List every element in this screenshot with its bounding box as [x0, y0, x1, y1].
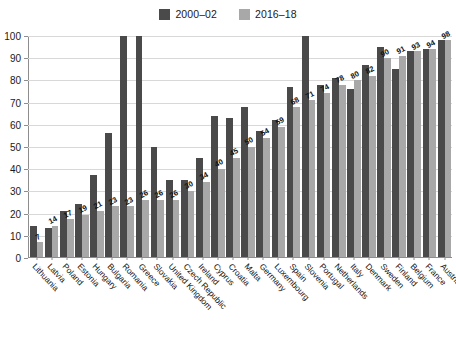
bar[interactable]: 71 — [309, 100, 316, 257]
bar-value-label: 93 — [410, 41, 421, 52]
x-axis-category-labels: LithuaniaLatviaPolandEstoniaHungaryBulga… — [29, 262, 453, 342]
x-category-cell: Slovakia — [150, 262, 165, 342]
bar-value-label: 40 — [214, 158, 225, 169]
y-tick-mark — [24, 147, 28, 148]
bar-groups: 7141719212323262626303440455054596871747… — [29, 36, 452, 257]
bar[interactable]: 26 — [142, 200, 149, 257]
bar-value-label: 82 — [365, 65, 376, 76]
bar[interactable]: 26 — [173, 200, 180, 257]
bar[interactable] — [136, 36, 143, 257]
bar[interactable]: 40 — [218, 169, 225, 257]
bar[interactable]: 50 — [248, 147, 255, 258]
bar[interactable]: 17 — [67, 219, 74, 257]
bar[interactable]: 94 — [429, 49, 436, 257]
legend-item[interactable]: 2016–18 — [239, 8, 297, 20]
bar[interactable] — [45, 228, 52, 257]
y-tick-label: 20 — [10, 208, 21, 219]
bar-value-label: 21 — [93, 200, 104, 211]
bar[interactable] — [226, 118, 233, 257]
bar-group: 19 — [74, 36, 89, 257]
bar[interactable] — [438, 40, 445, 257]
bar[interactable]: 90 — [384, 58, 391, 257]
bar[interactable] — [377, 47, 384, 257]
x-category-label[interactable]: Austria — [439, 262, 456, 287]
bar[interactable]: 23 — [127, 206, 134, 257]
bar[interactable] — [423, 49, 430, 257]
x-category-cell: Malta — [241, 262, 256, 342]
bar[interactable]: 54 — [263, 138, 270, 257]
bar[interactable] — [332, 78, 339, 257]
bar-group: 71 — [301, 36, 316, 257]
x-category-cell: Bulgaria — [105, 262, 120, 342]
x-category-cell: Italy — [347, 262, 362, 342]
y-tick-mark — [24, 103, 28, 104]
bar[interactable]: 82 — [369, 76, 376, 257]
legend-swatch-2016-18 — [239, 9, 250, 20]
bar[interactable]: 45 — [233, 158, 240, 257]
bar-group: 78 — [331, 36, 346, 257]
bar[interactable]: 34 — [203, 182, 210, 257]
bar[interactable] — [272, 120, 279, 257]
bar[interactable]: 19 — [82, 215, 89, 257]
bar[interactable] — [151, 147, 158, 258]
x-category-cell: Estonia — [74, 262, 89, 342]
bar[interactable] — [392, 69, 399, 257]
x-category-cell: Germany — [256, 262, 271, 342]
bar[interactable] — [256, 131, 263, 257]
bar[interactable]: 59 — [278, 127, 285, 257]
x-category-cell: Lithuania — [29, 262, 44, 342]
bar[interactable] — [211, 116, 218, 257]
x-category-cell: Greece — [135, 262, 150, 342]
x-category-cell: Croatia — [226, 262, 241, 342]
bar[interactable] — [287, 87, 294, 257]
bar[interactable]: 91 — [399, 56, 406, 257]
bar[interactable]: 78 — [339, 85, 346, 257]
bar-group: 7 — [29, 36, 44, 257]
bar-group: 59 — [271, 36, 286, 257]
bar[interactable] — [90, 175, 97, 257]
y-tick-mark — [24, 125, 28, 126]
bar-group: 34 — [195, 36, 210, 257]
bar[interactable] — [407, 51, 414, 257]
bar[interactable]: 23 — [112, 206, 119, 257]
x-category-cell: Spain — [286, 262, 301, 342]
bar[interactable] — [105, 133, 112, 257]
y-tick-label: 10 — [10, 230, 21, 241]
legend-item-label: 2000–02 — [175, 8, 217, 20]
bar[interactable] — [30, 226, 37, 257]
x-category-cell: Finland — [392, 262, 407, 342]
bar[interactable]: 21 — [97, 211, 104, 257]
y-tick-mark — [24, 236, 28, 237]
chart-legend: 2000–022016–18 — [0, 8, 456, 20]
x-category-cell: Belgium — [408, 262, 423, 342]
x-category-cell: Austria — [438, 262, 453, 342]
bar[interactable] — [302, 36, 309, 257]
bar-value-label: 94 — [425, 39, 436, 50]
x-category-cell: Poland — [59, 262, 74, 342]
bar-group: 30 — [180, 36, 195, 257]
bar-group: 54 — [256, 36, 271, 257]
bar[interactable]: 68 — [293, 107, 300, 257]
bar[interactable] — [241, 107, 248, 257]
x-category-cell: Luxembourg — [271, 262, 286, 342]
bar[interactable] — [317, 85, 324, 257]
y-tick-mark — [24, 191, 28, 192]
bar[interactable] — [347, 89, 354, 257]
bar[interactable]: 74 — [324, 93, 331, 257]
legend-swatch-2000-02 — [159, 9, 170, 20]
y-tick-mark — [24, 36, 28, 37]
bar[interactable]: 98 — [445, 40, 452, 257]
bar-group: 14 — [44, 36, 59, 257]
legend-item[interactable]: 2000–02 — [159, 8, 217, 20]
bar-value-label: 80 — [350, 70, 361, 81]
bar[interactable]: 7 — [37, 242, 44, 257]
bar[interactable] — [362, 65, 369, 257]
y-tick-mark — [24, 169, 28, 170]
bar[interactable] — [120, 36, 127, 257]
bar[interactable]: 80 — [354, 80, 361, 257]
bar[interactable]: 26 — [157, 200, 164, 257]
bar[interactable]: 93 — [414, 51, 421, 257]
bar[interactable]: 30 — [188, 191, 195, 257]
bar[interactable]: 14 — [52, 226, 59, 257]
bar-value-label: 98 — [440, 30, 451, 41]
